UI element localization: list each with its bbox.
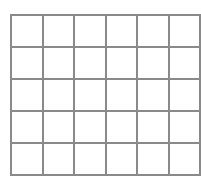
grid-cell	[43, 79, 75, 111]
grid-row	[11, 79, 200, 111]
grid-cell	[106, 111, 138, 143]
grid-row	[11, 15, 200, 47]
grid-cell	[169, 47, 201, 79]
grid-cell	[137, 79, 169, 111]
empty-grid	[10, 14, 201, 176]
grid-cell	[11, 111, 43, 143]
grid-cell	[11, 79, 43, 111]
grid-cell	[106, 79, 138, 111]
grid-cell	[74, 79, 106, 111]
grid-cell	[74, 111, 106, 143]
grid-row	[11, 111, 200, 143]
grid-cell	[169, 143, 201, 175]
grid-cell	[169, 15, 201, 47]
grid-cell	[137, 47, 169, 79]
grid-cell	[43, 47, 75, 79]
grid-cell	[11, 143, 43, 175]
grid-row	[11, 47, 200, 79]
grid-row	[11, 143, 200, 175]
grid-cell	[43, 143, 75, 175]
grid-cell	[137, 15, 169, 47]
grid-cell	[137, 111, 169, 143]
grid-cell	[106, 15, 138, 47]
grid-cell	[74, 47, 106, 79]
grid-cell	[106, 143, 138, 175]
grid-cell	[169, 111, 201, 143]
grid-cell	[74, 143, 106, 175]
grid-cell	[43, 111, 75, 143]
grid-cell	[74, 15, 106, 47]
grid-cell	[11, 47, 43, 79]
grid-cell	[106, 47, 138, 79]
grid-cell	[137, 143, 169, 175]
grid-cell	[43, 15, 75, 47]
grid-cell	[11, 15, 43, 47]
grid-cell	[169, 79, 201, 111]
